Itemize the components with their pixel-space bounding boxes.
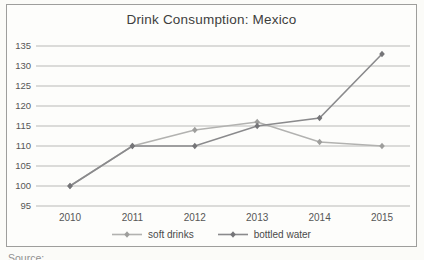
footer-caption: Source: ... (8, 252, 308, 260)
x-axis-tick-label: 2010 (59, 212, 82, 223)
y-axis-tick-label: 110 (16, 140, 31, 151)
y-axis-tick-label: 105 (15, 160, 31, 171)
data-point-marker (130, 143, 136, 149)
line-chart-plot: 9510010511011512012513013520102011201220… (7, 5, 416, 246)
legend-label-bottled-water: bottled water (254, 229, 311, 240)
data-point-marker (379, 143, 385, 149)
x-axis-tick-label: 2012 (184, 212, 207, 223)
y-axis-tick-label: 115 (16, 120, 31, 131)
scanned-chart-page: 9510010511011512012513013520102011201220… (0, 0, 424, 260)
data-point-marker (192, 143, 198, 149)
y-axis-tick-label: 100 (15, 180, 31, 191)
legend-item-soft-drinks: soft drinks (112, 229, 194, 240)
x-axis-tick-label: 2014 (308, 212, 331, 223)
chart-title: Drink Consumption: Mexico (7, 12, 416, 27)
y-axis-tick-label: 130 (15, 60, 31, 71)
soft-drinks-line-marker-icon (112, 230, 142, 239)
data-point-marker (254, 123, 260, 129)
chart-container: 9510010511011512012513013520102011201220… (6, 4, 417, 247)
x-axis-tick-label: 2011 (122, 212, 144, 223)
y-axis-tick-label: 135 (15, 40, 31, 51)
legend-item-bottled-water: bottled water (218, 229, 311, 240)
chart-legend: soft drinks bottled water (7, 229, 416, 240)
y-axis-tick-label: 120 (15, 100, 31, 111)
data-point-marker (230, 231, 236, 237)
bottled-water-line-marker-icon (218, 230, 248, 239)
legend-label-soft-drinks: soft drinks (148, 229, 194, 240)
y-axis-tick-label: 125 (15, 80, 31, 91)
series-line-soft-drinks (70, 122, 382, 186)
data-point-marker (67, 183, 73, 189)
x-axis-tick-label: 2015 (371, 212, 394, 223)
data-point-marker (192, 127, 198, 133)
y-axis-tick-label: 95 (20, 200, 31, 211)
x-axis-tick-label: 2013 (246, 212, 269, 223)
data-point-marker (124, 231, 130, 237)
data-point-marker (317, 139, 323, 145)
